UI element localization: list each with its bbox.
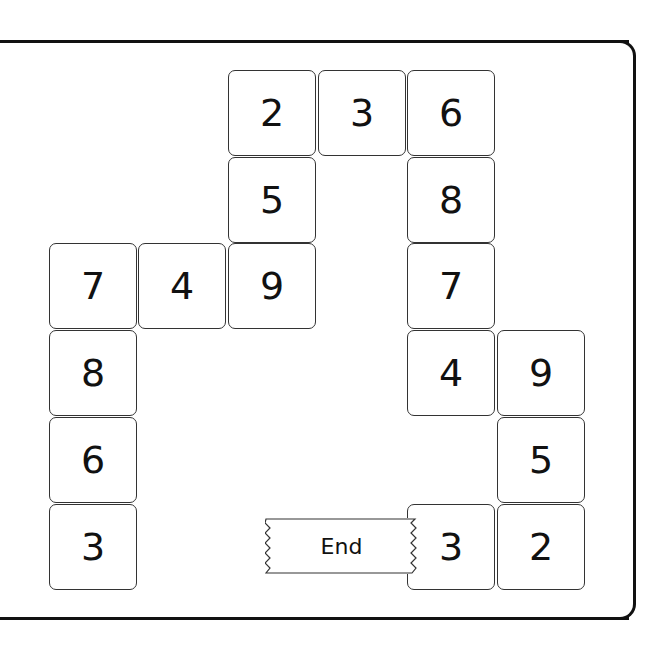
board-bottom-edge [29,617,629,620]
path-cell[interactable]: 2 [228,70,316,156]
path-cell[interactable]: 7 [407,243,495,329]
end-tag: End [265,518,418,574]
path-cell[interactable]: 4 [138,243,226,329]
end-label: End [321,534,363,559]
path-cell[interactable]: 8 [49,330,137,416]
path-cell[interactable]: 6 [407,70,495,156]
path-cell[interactable]: 7 [49,243,137,329]
path-cell[interactable]: 4 [407,330,495,416]
path-cell[interactable]: 9 [497,330,585,416]
path-cell[interactable]: 3 [407,504,495,590]
path-cell[interactable]: 9 [228,243,316,329]
path-cell[interactable]: 6 [49,417,137,503]
path-cell[interactable]: 3 [49,504,137,590]
path-cell[interactable]: 5 [497,417,585,503]
path-cell[interactable]: 2 [497,504,585,590]
board-top-edge [29,40,629,43]
path-cell[interactable]: 3 [318,70,406,156]
path-cell[interactable]: 5 [228,157,316,243]
path-cell[interactable]: 8 [407,157,495,243]
